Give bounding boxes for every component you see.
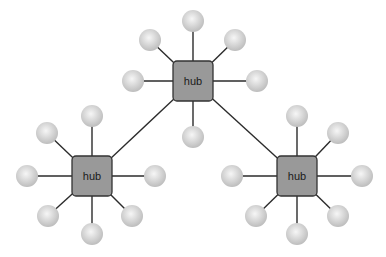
peripheral-node[interactable]: [122, 70, 144, 92]
hub-label: hub: [288, 170, 306, 182]
peripheral-node[interactable]: [182, 126, 204, 148]
hub-right[interactable]: hub: [277, 156, 317, 196]
peripheral-node[interactable]: [224, 29, 246, 51]
peripheral-node[interactable]: [144, 165, 166, 187]
peripheral-node[interactable]: [16, 165, 38, 187]
peripheral-node[interactable]: [286, 105, 308, 127]
peripheral-node[interactable]: [327, 122, 349, 144]
peripheral-node[interactable]: [351, 165, 373, 187]
peripheral-node[interactable]: [246, 70, 268, 92]
hub-label: hub: [184, 75, 202, 87]
peripheral-node[interactable]: [121, 205, 143, 227]
hub-label: hub: [83, 170, 101, 182]
hub-left[interactable]: hub: [72, 156, 112, 196]
peripheral-node[interactable]: [36, 122, 58, 144]
peripheral-node[interactable]: [182, 10, 204, 32]
peripheral-node[interactable]: [245, 205, 267, 227]
network-diagram: hubhubhub: [0, 0, 386, 257]
peripheral-node[interactable]: [81, 105, 103, 127]
peripheral-node[interactable]: [37, 205, 59, 227]
nodes-layer: [16, 10, 373, 245]
hub-top[interactable]: hub: [173, 61, 213, 101]
peripheral-node[interactable]: [139, 29, 161, 51]
peripheral-node[interactable]: [327, 205, 349, 227]
peripheral-node[interactable]: [286, 223, 308, 245]
peripheral-node[interactable]: [81, 223, 103, 245]
peripheral-node[interactable]: [221, 165, 243, 187]
